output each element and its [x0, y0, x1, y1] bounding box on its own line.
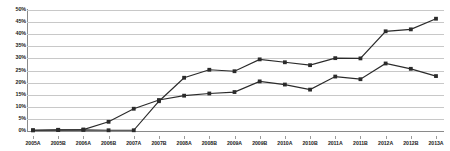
plot-area — [27, 10, 444, 131]
data-point-marker — [409, 67, 413, 71]
x-tick-mark — [159, 136, 160, 139]
data-point-marker — [308, 63, 312, 67]
gridline-0% — [27, 131, 444, 132]
x-tick-label: 2011B — [353, 141, 368, 146]
x-tick-label: 2005A — [25, 141, 40, 146]
x-tick-label: 2011A — [328, 141, 343, 146]
data-point-marker — [56, 128, 60, 132]
data-point-marker — [107, 120, 111, 124]
x-tick-label: 2007A — [126, 141, 141, 146]
data-point-marker — [31, 128, 35, 132]
data-point-marker — [359, 57, 363, 61]
y-tick-label: 15% — [2, 92, 26, 97]
data-point-marker — [132, 107, 136, 111]
data-point-marker — [283, 83, 287, 87]
x-tick-mark — [209, 136, 210, 139]
data-point-marker — [384, 62, 388, 66]
x-tick-mark — [109, 136, 110, 139]
x-tick-mark — [436, 136, 437, 139]
x-tick-label: 2006B — [101, 141, 116, 146]
x-tick-mark — [386, 136, 387, 139]
x-tick-mark — [260, 136, 261, 139]
data-point-marker — [258, 57, 262, 61]
data-point-marker — [233, 90, 237, 94]
y-tick-label: 50% — [2, 7, 26, 12]
x-tick-label: 2012A — [378, 141, 393, 146]
x-tick-label: 2005B — [51, 141, 66, 146]
data-point-marker — [384, 29, 388, 33]
data-point-marker — [359, 77, 363, 81]
x-tick-mark — [335, 136, 336, 139]
data-point-marker — [409, 27, 413, 31]
data-point-marker — [434, 74, 438, 78]
x-tick-label: 2008B — [202, 141, 217, 146]
data-point-marker — [132, 128, 136, 132]
x-tick-mark — [33, 136, 34, 139]
data-point-marker — [157, 98, 161, 102]
x-tick-label: 2007B — [151, 141, 166, 146]
x-tick-mark — [235, 136, 236, 139]
x-tick-mark — [58, 136, 59, 139]
data-point-marker — [107, 128, 111, 132]
series-lines — [27, 10, 444, 131]
y-tick-label: 10% — [2, 104, 26, 109]
x-tick-label: 2013A — [428, 141, 443, 146]
chart-screenshot: 0%5%10%15%20%25%30%35%40%45%50% 2005A200… — [0, 0, 450, 151]
x-tick-mark — [360, 136, 361, 139]
y-tick-label: 0% — [2, 128, 26, 133]
series-line-1 — [33, 19, 436, 131]
x-tick-mark — [411, 136, 412, 139]
x-tick-mark — [184, 136, 185, 139]
data-point-marker — [283, 60, 287, 64]
y-tick-label: 45% — [2, 19, 26, 24]
y-tick-label: 35% — [2, 43, 26, 48]
data-point-marker — [207, 68, 211, 72]
data-point-marker — [258, 79, 262, 83]
x-tick-mark — [310, 136, 311, 139]
x-tick-label: 2009B — [252, 141, 267, 146]
data-point-marker — [207, 92, 211, 96]
x-tick-label: 2008A — [177, 141, 192, 146]
x-tick-label: 2010A — [277, 141, 292, 146]
data-point-marker — [333, 56, 337, 60]
x-tick-label: 2006A — [76, 141, 91, 146]
y-tick-label: 40% — [2, 31, 26, 36]
x-tick-mark — [83, 136, 84, 139]
data-point-marker — [233, 69, 237, 73]
y-axis-labels: 0%5%10%15%20%25%30%35%40%45%50% — [0, 0, 26, 151]
data-point-marker — [81, 128, 85, 132]
x-tick-mark — [285, 136, 286, 139]
y-tick-label: 25% — [2, 68, 26, 73]
data-point-marker — [308, 88, 312, 92]
x-tick-mark — [134, 136, 135, 139]
data-point-marker — [434, 17, 438, 21]
y-tick-label: 20% — [2, 80, 26, 85]
data-point-marker — [333, 75, 337, 79]
x-tick-label: 2012B — [403, 141, 418, 146]
y-tick-label: 5% — [2, 116, 26, 121]
x-tick-label: 2009A — [227, 141, 242, 146]
series-line-2 — [33, 63, 436, 130]
x-axis-labels: 2005A2005B2006A2006B2007A2007B2008A2008B… — [27, 136, 444, 148]
y-tick-label: 30% — [2, 55, 26, 60]
data-point-marker — [182, 94, 186, 98]
x-tick-label: 2010B — [303, 141, 318, 146]
data-point-marker — [182, 76, 186, 80]
